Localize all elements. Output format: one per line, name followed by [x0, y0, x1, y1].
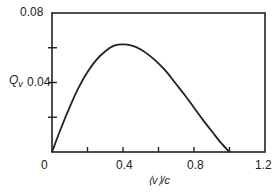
chart: 0.08 0.04 Qv 0 0.4 0.8 1.2 ⟨v⟩/c	[0, 0, 278, 192]
x-tick-label-0: 0	[41, 158, 48, 172]
y-axis-label-sub: v	[18, 79, 23, 89]
x-tick-label-0.8: 0.8	[187, 158, 204, 172]
plot-frame	[52, 13, 265, 152]
x-tick-label-1.2: 1.2	[255, 158, 272, 172]
x-axis-label: ⟨v⟩/c	[148, 174, 170, 187]
x-tick-label-0.4: 0.4	[116, 158, 133, 172]
y-axis-label-main: Q	[9, 73, 18, 87]
y-axis-label: Qv	[9, 73, 23, 89]
y-tick-label-0.04: 0.04	[27, 75, 50, 89]
y-tick-label-0.08: 0.08	[20, 5, 43, 19]
series-line	[52, 44, 230, 152]
